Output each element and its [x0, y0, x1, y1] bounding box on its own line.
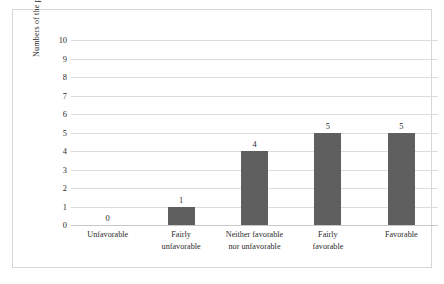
bar [314, 133, 341, 226]
bar-value-label: 5 [308, 122, 348, 131]
plot-area: 01455 [71, 40, 438, 225]
bar [168, 207, 195, 226]
bar [388, 133, 415, 226]
y-axis-tick-label: 1 [51, 202, 67, 211]
x-axis-category-label: Favorable [365, 229, 438, 241]
x-axis-category-label: Fairlyunfavorable [144, 229, 217, 252]
gridline [71, 77, 438, 78]
x-axis-category-label-line: Neither favorable [218, 229, 291, 241]
y-axis-tick-label: 7 [51, 91, 67, 100]
y-axis-tick-label: 5 [51, 128, 67, 137]
y-axis-tick-label: 3 [51, 165, 67, 174]
gridline [71, 133, 438, 134]
bar-value-label: 1 [161, 196, 201, 205]
bar [241, 151, 268, 225]
chart-frame: Numbers of the participants 109876543210… [12, 9, 432, 268]
y-axis-tick-label: 8 [51, 73, 67, 82]
bar-value-label: 5 [381, 122, 421, 131]
x-axis-category-label: Neither favorablenor unfavorable [218, 229, 291, 252]
y-axis-tick-label: 4 [51, 147, 67, 156]
gridline [71, 40, 438, 41]
gridline [71, 59, 438, 60]
y-axis-tick-label: 10 [51, 36, 67, 45]
gridline [71, 96, 438, 97]
x-axis-category-label-line: favorable [291, 241, 364, 253]
x-axis-category-label-line: Fairly [144, 229, 217, 241]
x-axis-category-label-line: Unfavorable [71, 229, 144, 241]
x-axis-category-label: Unfavorable [71, 229, 144, 241]
y-axis-tick-label: 0 [51, 221, 67, 230]
bar-value-label: 4 [235, 140, 275, 149]
y-axis-tick-labels: 109876543210 [49, 40, 67, 225]
x-axis-category-labels: UnfavorableFairlyunfavorableNeither favo… [71, 229, 438, 269]
gridline [71, 114, 438, 115]
x-axis-category-label-line: nor unfavorable [218, 241, 291, 253]
x-axis-category-label-line: unfavorable [144, 241, 217, 253]
x-axis-category-label-line: Favorable [365, 229, 438, 241]
y-axis-title: Numbers of the participants [30, 0, 44, 80]
y-axis-tick-label: 2 [51, 184, 67, 193]
y-axis-tick-label: 6 [51, 110, 67, 119]
x-axis-category-label-line: Fairly [291, 229, 364, 241]
bar-value-label: 0 [88, 214, 128, 223]
y-axis-tick-label: 9 [51, 54, 67, 63]
x-axis-category-label: Fairlyfavorable [291, 229, 364, 252]
gridline [71, 225, 438, 226]
